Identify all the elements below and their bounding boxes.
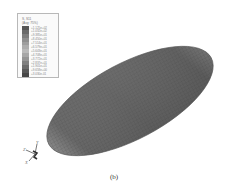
legend-swatch (22, 73, 29, 77)
contour-legend: S, S11 (Avg: 75%) +1.125e+02 +1.032e+02 … (17, 13, 59, 78)
figure-caption: (b) (0, 173, 228, 181)
triad-y-label: Y (36, 140, 39, 145)
legend-row: +3.030e-01 (22, 73, 58, 77)
triad-x-label: X (24, 160, 28, 165)
legend-value: +3.030e-01 (31, 72, 46, 76)
triad-z-label: Z (23, 147, 26, 152)
axis-triad-icon: Y Z X (22, 138, 48, 166)
legend-subtitle: (Avg: 75%) (22, 21, 38, 25)
legend-rows: +1.125e+02 +1.032e+02 +9.385e+01 +8.450e… (22, 26, 58, 77)
